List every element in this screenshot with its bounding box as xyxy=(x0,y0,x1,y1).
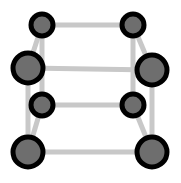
graph-node[interactable] xyxy=(31,94,53,116)
graph-node[interactable] xyxy=(13,137,43,167)
graph-node[interactable] xyxy=(137,137,167,167)
graph-edge xyxy=(28,68,152,70)
nodes-layer xyxy=(13,14,167,167)
graph-node[interactable] xyxy=(137,55,167,85)
cube-graph-figure xyxy=(0,0,181,183)
graph-node[interactable] xyxy=(13,53,43,83)
edges-layer xyxy=(28,25,152,152)
graph-node[interactable] xyxy=(31,14,53,36)
diagram-canvas xyxy=(0,0,181,183)
graph-node[interactable] xyxy=(122,94,144,116)
graph-node[interactable] xyxy=(122,14,144,36)
